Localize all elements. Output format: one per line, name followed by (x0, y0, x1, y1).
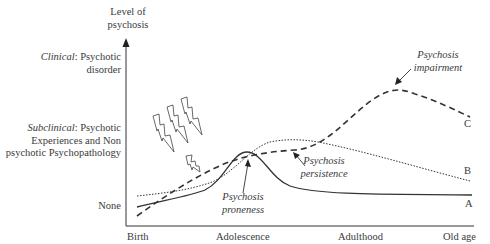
x-tick-birth: Birth (127, 231, 149, 244)
curve-label-c: C (464, 118, 471, 131)
small-lightning-bolt-icon (186, 155, 200, 172)
subclinical-rest: : Psychotic (75, 122, 121, 133)
y-axis-title: Level of psychosis (105, 6, 151, 31)
curve-label-b: B (464, 165, 471, 178)
clinical-rest: : Psychotic (75, 51, 121, 62)
y-axis-title-line2: psychosis (108, 19, 149, 30)
annotation-proneness: Psychosis proneness (217, 191, 269, 216)
x-tick-adulthood: Adulthood (338, 231, 383, 244)
subclinical-line2: Experiences and Non (31, 135, 121, 146)
impairment-line1: Psychosis (417, 49, 458, 60)
x-tick-old-age: Old age (443, 231, 476, 244)
y-axis-title-line1: Level of (110, 6, 145, 17)
level-subclinical: Subclinical: Psychotic Experiences and N… (6, 122, 121, 160)
x-tick-adolescence: Adolescence (216, 231, 270, 244)
annotation-persistence: Psychosis persistence (296, 155, 352, 180)
subclinical-term: Subclinical (27, 122, 74, 133)
impairment-line2: impairment (414, 62, 462, 73)
annotation-impairment: Psychosis impairment (408, 49, 468, 74)
curve-label-a: A (465, 198, 473, 211)
proneness-pointer-arrow (243, 159, 251, 193)
level-clinical: Clinical: Psychotic disorder (41, 51, 121, 76)
proneness-line2: proneness (222, 204, 264, 215)
subclinical-line3: psychotic Psychopathology (6, 147, 121, 158)
clinical-term: Clinical (41, 51, 75, 62)
y-axis-arrow-icon (123, 38, 130, 47)
persistence-line1: Psychosis (303, 155, 344, 166)
level-none: None (98, 200, 121, 213)
clinical-line2: disorder (87, 64, 121, 75)
proneness-line1: Psychosis (222, 191, 263, 202)
persistence-line2: persistence (300, 168, 347, 179)
